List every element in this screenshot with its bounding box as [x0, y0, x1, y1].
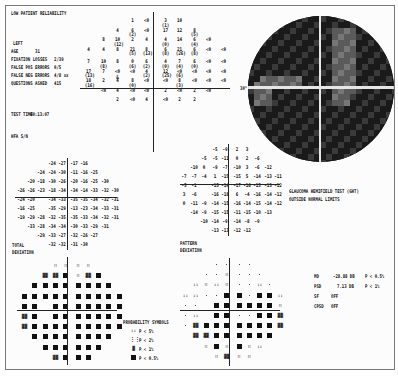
deviation-value: -34: [70, 187, 79, 193]
prob-symbol-0.5pct: [96, 345, 101, 350]
prob-symbol-0.5pct: [117, 324, 122, 329]
prob-symbol-2pct: ⁞⁞: [75, 273, 82, 278]
threshold-value: <0: [205, 68, 213, 74]
deviation-value: -6: [253, 164, 262, 170]
pattern-prob-horizontal-axis: [180, 310, 280, 311]
deviation-value: -8: [243, 218, 252, 224]
prob-symbol-normal: [206, 274, 207, 275]
total-dev-vertical-axis: [67, 158, 68, 250]
deviation-value: -33: [90, 187, 99, 193]
fixation-losses-label: FIXATION LOSSES: [11, 56, 47, 62]
deviation-value: -16: [210, 191, 219, 197]
prob-symbol-1pct: ▓▓: [277, 323, 284, 328]
threshold-retest-value: (16): [85, 82, 93, 88]
prob-symbol-0.5pct: [76, 314, 81, 319]
deviation-value: -14: [263, 200, 272, 206]
threshold-retest-value: (26): [176, 50, 184, 56]
threshold-retest-value: (5): [128, 50, 136, 56]
prob-symbol-0.5pct: [237, 303, 242, 308]
deviation-value: -17: [233, 182, 242, 188]
prob-symbol-0.5pct: [86, 304, 91, 309]
deviation-value: -16: [80, 169, 89, 175]
prob-symbol-0.5pct: [86, 324, 91, 329]
deviation-value: -32: [70, 232, 79, 238]
deviation-value: -10: [253, 209, 262, 215]
threshold-value: <0: [143, 77, 151, 83]
deviation-value: -12: [274, 191, 283, 197]
deviation-value: -11: [190, 200, 199, 206]
prob-symbol-0.5pct: [53, 294, 58, 299]
prob-symbol-0.5pct: [32, 294, 37, 299]
ght-title: GLAUCOMA HEMIFIELD TEST (GHT): [289, 188, 359, 194]
deviation-value: -7: [190, 173, 199, 179]
prob-symbol-0.5pct: [86, 345, 91, 350]
cpsd-value: OFF: [331, 303, 338, 309]
prob-symbol-5pct: ::: [192, 293, 199, 298]
prob-symbol-0.5pct: [53, 324, 58, 329]
threshold-value: 2: [128, 36, 136, 42]
threshold-value: <0: [161, 77, 169, 83]
deviation-value: -16: [80, 160, 89, 166]
deviation-value: -26: [27, 187, 36, 193]
pattern-prob-vertical-axis: [229, 258, 230, 366]
threshold-value: <0: [219, 77, 227, 83]
deviation-value: -9: [253, 218, 262, 224]
eye-label: LEFT: [13, 40, 23, 46]
total-prob-horizontal-axis: [17, 310, 117, 311]
deviation-value: -30: [80, 241, 89, 247]
deviation-value: -11: [70, 169, 79, 175]
questions-value: 415: [54, 80, 61, 86]
deviation-value: -24: [47, 160, 56, 166]
legend-label: P < 5%: [139, 328, 153, 334]
prob-symbol-0.5pct: [22, 294, 27, 299]
prob-symbol-0.5pct: [32, 314, 37, 319]
deviation-value: -31: [70, 241, 79, 247]
deviation-value: -29: [90, 223, 99, 229]
deviation-value: -25: [90, 178, 99, 184]
deviation-value: -24: [37, 169, 46, 175]
prob-symbol-0.5pct: [214, 313, 219, 318]
prob-symbol-normal: [249, 284, 250, 285]
prob-symbol-0.5pct: [86, 283, 91, 288]
prob-symbol-normal: [195, 305, 196, 306]
ght-result: OUTSIDE NORMAL LIMITS: [289, 196, 340, 202]
legend-symbol-icon: ▓: [130, 346, 137, 351]
deviation-value: -31: [111, 214, 120, 220]
total-dev-label-1: TOTAL: [12, 242, 24, 248]
threshold-value: 2: [176, 96, 184, 102]
threshold-value: <0: [219, 68, 227, 74]
threshold-value: 14: [176, 36, 184, 42]
threshold-value: <0: [190, 77, 198, 83]
prob-symbol-0.5pct: [53, 345, 58, 350]
prob-symbol-0.5pct: [43, 283, 48, 288]
false-neg-label: FALSE NEG ERRORS: [11, 72, 50, 78]
deviation-value: -29: [58, 205, 67, 211]
prob-symbol-0.5pct: [237, 293, 242, 298]
prob-symbol-normal: [269, 284, 270, 285]
deviation-value: -25: [90, 169, 99, 175]
threshold-value: 2: [190, 96, 198, 102]
deviation-value: -16: [80, 178, 89, 184]
deviation-value: -6: [190, 191, 199, 197]
prob-symbol-1pct: ▓▓: [52, 273, 59, 278]
deviation-value: -27: [90, 232, 99, 238]
threshold-value: 7: [85, 58, 93, 64]
prob-symbol-0.5pct: [86, 314, 91, 319]
prob-symbol-1pct: ▓▓: [277, 313, 284, 318]
deviation-value: -34: [90, 214, 99, 220]
prob-symbol-2pct: ⁞⁞: [246, 354, 253, 359]
prob-symbol-0.5pct: [96, 314, 101, 319]
prob-symbol-0.5pct: [117, 304, 122, 309]
deviation-value: -23: [80, 205, 89, 211]
prob-symbol-0.5pct: [32, 334, 37, 339]
prob-symbol-0.5pct: [86, 294, 91, 299]
deviation-value: -26: [17, 187, 26, 193]
deviation-value: -16: [253, 191, 262, 197]
deviation-value: -11: [274, 173, 283, 179]
pattern-dev-label-2: DEVIATION: [180, 247, 202, 253]
prob-symbol-0.5pct: [257, 313, 262, 318]
prob-symbol-0.5pct: [106, 334, 111, 339]
deviation-value: 5: [243, 173, 252, 179]
psd-p: P < 1%: [365, 283, 379, 289]
psd-label: PSD: [314, 283, 321, 289]
